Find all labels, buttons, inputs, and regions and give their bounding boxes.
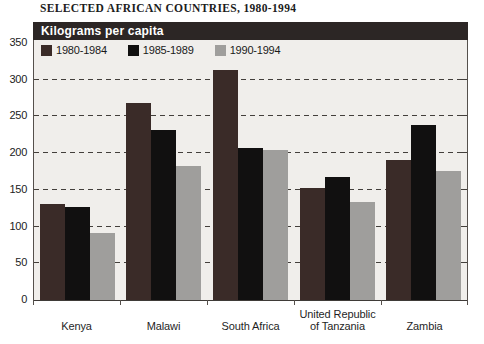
bar (126, 103, 151, 300)
legend-swatch-icon (128, 45, 139, 56)
bar (436, 171, 461, 300)
legend-label: 1985-1989 (143, 44, 194, 56)
x-category-label-text: United Republic of Tanzania (296, 309, 379, 332)
y-tick-label-0: 0 (0, 293, 27, 306)
legend: 1980-19841985-19891990-1994 (41, 44, 280, 56)
bar (213, 70, 238, 300)
legend-item: 1985-1989 (128, 44, 194, 56)
bar (263, 150, 288, 300)
panel-header-label: Kilograms per capita (33, 24, 164, 38)
legend-item: 1980-1984 (41, 44, 107, 56)
x-category-label-text: Zambia (406, 321, 442, 333)
bar (386, 160, 411, 300)
panel-header-bar: Kilograms per capita (33, 22, 468, 40)
chart-panel: Kilograms per capita 1980-19841985-19891… (33, 22, 468, 301)
x-category-label-4: Zambia (381, 303, 468, 332)
x-category-label-text: Malawi (147, 321, 181, 333)
bar (300, 188, 325, 300)
legend-label: 1980-1984 (56, 44, 107, 56)
x-category-label-1: Malawi (120, 303, 207, 332)
y-tick-label-50: 50 (0, 256, 27, 269)
bar (350, 202, 375, 300)
x-category-label-text: Kenya (61, 321, 92, 333)
screenshot-canvas: SELECTED AFRICAN COUNTRIES, 1980-1994 Ki… (0, 0, 484, 344)
x-category-label-2: South Africa (207, 303, 294, 332)
bars-layer (34, 40, 467, 300)
bar (151, 130, 176, 300)
chart-title: SELECTED AFRICAN COUNTRIES, 1980-1994 (40, 2, 460, 14)
bar (325, 177, 350, 300)
bar (411, 125, 436, 300)
legend-swatch-icon (41, 45, 52, 56)
y-tick-label-250: 250 (0, 109, 27, 122)
bar-group-4 (380, 40, 467, 300)
legend-item: 1990-1994 (215, 44, 281, 56)
bar (40, 204, 65, 300)
bar-group-2 (207, 40, 294, 300)
y-axis-labels: 050100150200250300350 (0, 22, 27, 300)
y-tick-label-350: 350 (0, 36, 27, 49)
x-category-label-0: Kenya (33, 303, 120, 332)
y-tick-label-100: 100 (0, 220, 27, 233)
bar-group-1 (121, 40, 208, 300)
y-tick-label-200: 200 (0, 146, 27, 159)
y-tick-label-150: 150 (0, 183, 27, 196)
bar (176, 166, 201, 300)
bar (238, 148, 263, 300)
legend-label: 1990-1994 (230, 44, 281, 56)
bar-group-3 (294, 40, 381, 300)
plot-area: 1980-19841985-19891990-1994 (33, 40, 468, 301)
bar-group-0 (34, 40, 121, 300)
x-axis-labels: KenyaMalawiSouth AfricaUnited Republic o… (33, 303, 468, 332)
x-category-label-text: South Africa (221, 321, 279, 333)
bar (90, 233, 115, 300)
legend-swatch-icon (215, 45, 226, 56)
x-category-label-3: United Republic of Tanzania (294, 303, 381, 332)
y-tick-label-300: 300 (0, 73, 27, 86)
bar (65, 207, 90, 300)
